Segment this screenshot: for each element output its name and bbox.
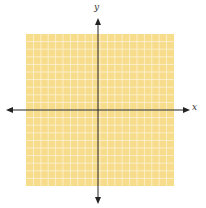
x-axis-left-arrow-icon	[6, 107, 13, 113]
coordinate-plane	[0, 0, 206, 208]
x-axis-label: x	[192, 102, 197, 112]
x-axis-right-arrow-icon	[183, 107, 190, 113]
y-axis-up-arrow-icon	[95, 18, 101, 25]
y-axis-label: y	[94, 2, 99, 12]
y-axis-down-arrow-icon	[95, 197, 101, 204]
